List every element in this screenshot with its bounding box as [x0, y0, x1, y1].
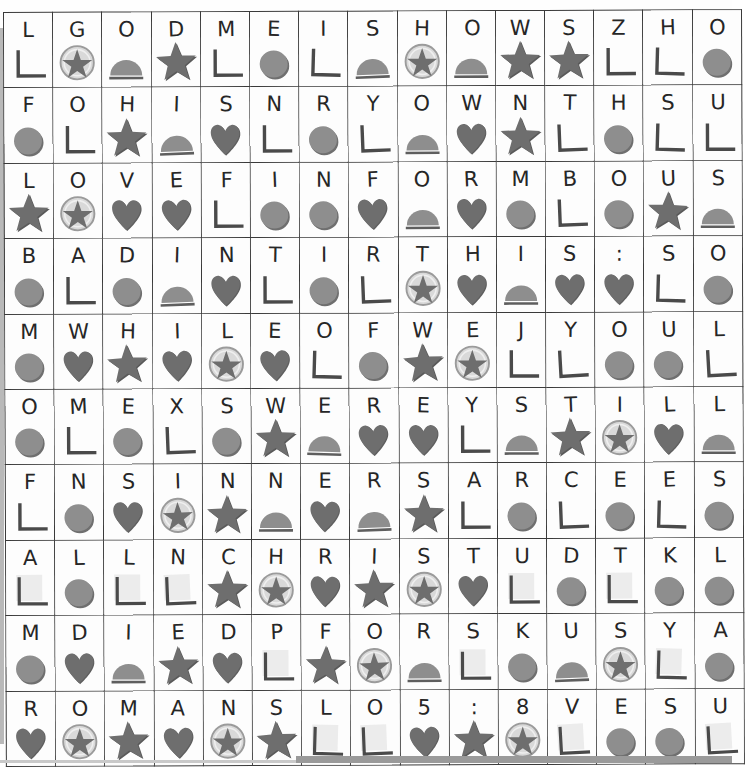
- grid-cell[interactable]: O: [692, 10, 741, 86]
- grid-cell[interactable]: N: [202, 464, 251, 540]
- grid-cell[interactable]: M: [5, 314, 54, 390]
- grid-cell[interactable]: O: [53, 88, 102, 164]
- grid-cell[interactable]: E: [645, 462, 694, 538]
- grid-cell[interactable]: H: [397, 11, 446, 87]
- grid-cell[interactable]: U: [547, 613, 596, 689]
- grid-cell[interactable]: I: [250, 162, 299, 238]
- grid-cell[interactable]: F: [201, 162, 250, 238]
- grid-cell[interactable]: O: [350, 689, 399, 765]
- grid-cell[interactable]: S: [693, 160, 742, 236]
- grid-cell[interactable]: F: [5, 465, 54, 541]
- grid-cell[interactable]: F: [301, 614, 350, 690]
- grid-cell[interactable]: I: [153, 464, 202, 540]
- grid-cell[interactable]: A: [154, 690, 203, 766]
- grid-cell[interactable]: R: [349, 388, 398, 464]
- grid-cell[interactable]: B: [4, 238, 53, 314]
- grid-cell[interactable]: 8: [498, 689, 547, 765]
- grid-cell[interactable]: A: [448, 463, 497, 539]
- grid-cell[interactable]: S: [545, 10, 594, 86]
- grid-cell[interactable]: W: [251, 388, 300, 464]
- grid-cell[interactable]: R: [399, 614, 448, 690]
- grid-cell[interactable]: E: [249, 11, 298, 87]
- grid-cell[interactable]: A: [6, 540, 55, 616]
- grid-cell[interactable]: W: [495, 10, 544, 86]
- grid-cell[interactable]: L: [644, 387, 693, 463]
- grid-cell[interactable]: R: [447, 161, 496, 237]
- grid-cell[interactable]: H: [251, 539, 300, 615]
- grid-cell[interactable]: E: [595, 462, 644, 538]
- grid-cell[interactable]: N: [54, 464, 103, 540]
- grid-cell[interactable]: H: [447, 237, 496, 313]
- grid-cell[interactable]: E: [153, 615, 202, 691]
- grid-cell[interactable]: S: [399, 539, 448, 615]
- grid-cell[interactable]: I: [350, 539, 399, 615]
- grid-cell[interactable]: O: [398, 162, 447, 238]
- grid-cell[interactable]: S: [399, 463, 448, 539]
- grid-cell[interactable]: I: [595, 387, 644, 463]
- grid-cell[interactable]: S: [201, 87, 250, 163]
- grid-cell[interactable]: S: [202, 389, 251, 465]
- grid-cell[interactable]: F: [349, 313, 398, 389]
- grid-cell[interactable]: S: [252, 690, 301, 766]
- grid-cell[interactable]: I: [299, 11, 348, 87]
- grid-cell[interactable]: I: [152, 238, 201, 314]
- grid-cell[interactable]: R: [299, 87, 348, 163]
- grid-cell[interactable]: E: [251, 313, 300, 389]
- grid-cell[interactable]: I: [152, 313, 201, 389]
- grid-cell[interactable]: M: [200, 12, 249, 88]
- grid-cell[interactable]: O: [446, 11, 495, 87]
- grid-cell[interactable]: S: [694, 462, 743, 538]
- grid-cell[interactable]: G: [53, 12, 102, 88]
- grid-cell[interactable]: Y: [546, 312, 595, 388]
- grid-cell[interactable]: S: [449, 614, 498, 690]
- grid-cell[interactable]: T: [596, 538, 645, 614]
- grid-cell[interactable]: C: [546, 463, 595, 539]
- grid-cell[interactable]: P: [252, 614, 301, 690]
- grid-cell[interactable]: :: [449, 689, 498, 765]
- grid-cell[interactable]: M: [496, 161, 545, 237]
- grid-cell[interactable]: O: [693, 236, 742, 312]
- grid-cell[interactable]: R: [301, 539, 350, 615]
- grid-cell[interactable]: S: [644, 236, 693, 312]
- grid-cell[interactable]: T: [250, 238, 299, 314]
- grid-cell[interactable]: U: [695, 688, 744, 764]
- grid-cell[interactable]: E: [447, 312, 496, 388]
- grid-cell[interactable]: O: [5, 389, 54, 465]
- grid-cell[interactable]: E: [152, 163, 201, 239]
- grid-cell[interactable]: :: [595, 236, 644, 312]
- grid-cell[interactable]: I: [299, 237, 348, 313]
- grid-cell[interactable]: B: [545, 161, 594, 237]
- grid-cell[interactable]: O: [350, 614, 399, 690]
- grid-cell[interactable]: N: [299, 162, 348, 238]
- grid-cell[interactable]: E: [300, 464, 349, 540]
- grid-cell[interactable]: S: [497, 387, 546, 463]
- grid-cell[interactable]: L: [55, 540, 104, 616]
- grid-cell[interactable]: L: [201, 313, 250, 389]
- grid-cell[interactable]: E: [103, 389, 152, 465]
- grid-cell[interactable]: I: [151, 87, 200, 163]
- grid-cell[interactable]: L: [104, 540, 153, 616]
- grid-cell[interactable]: U: [692, 85, 741, 161]
- grid-cell[interactable]: L: [694, 387, 743, 463]
- grid-cell[interactable]: N: [251, 464, 300, 540]
- grid-cell[interactable]: A: [54, 238, 103, 314]
- grid-cell[interactable]: E: [300, 388, 349, 464]
- grid-cell[interactable]: R: [349, 237, 398, 313]
- grid-cell[interactable]: O: [397, 86, 446, 162]
- grid-cell[interactable]: R: [6, 691, 55, 767]
- grid-cell[interactable]: U: [497, 538, 546, 614]
- grid-cell[interactable]: Y: [348, 86, 397, 162]
- grid-cell[interactable]: O: [55, 691, 104, 767]
- grid-cell[interactable]: L: [4, 12, 53, 88]
- grid-cell[interactable]: I: [496, 237, 545, 313]
- grid-cell[interactable]: Z: [594, 10, 643, 86]
- grid-cell[interactable]: Y: [645, 613, 694, 689]
- grid-cell[interactable]: H: [103, 313, 152, 389]
- grid-cell[interactable]: E: [398, 388, 447, 464]
- grid-cell[interactable]: M: [6, 615, 55, 691]
- grid-cell[interactable]: L: [693, 311, 742, 387]
- grid-cell[interactable]: E: [596, 689, 645, 765]
- grid-cell[interactable]: S: [104, 464, 153, 540]
- grid-cell[interactable]: O: [595, 312, 644, 388]
- grid-cell[interactable]: L: [694, 537, 743, 613]
